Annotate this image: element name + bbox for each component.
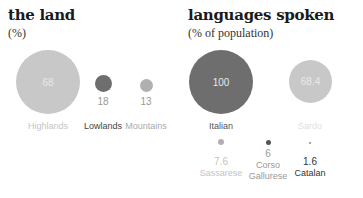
- sardo-bubble: 68.4: [289, 60, 332, 103]
- languages-subtitle: (% of population): [188, 26, 273, 41]
- land-subtitle: (%): [8, 26, 26, 41]
- catalan-label: Catalan: [275, 168, 345, 179]
- italian-value: 100: [213, 77, 230, 88]
- italian-label: Italian: [186, 121, 256, 132]
- mountains-bubble: [140, 79, 153, 92]
- catalan-bubble: [309, 142, 311, 144]
- highlands-bubble: 68: [16, 50, 80, 114]
- highlands-value: 68: [42, 77, 53, 88]
- mountains-value: 13: [116, 96, 176, 107]
- lowlands-bubble: [95, 75, 112, 92]
- italian-bubble: 100: [189, 50, 253, 114]
- catalan-value: 1.6: [280, 156, 340, 167]
- corso-gallurese-bubble: [266, 140, 271, 145]
- land-title: the land: [8, 6, 75, 24]
- languages-title: languages spoken: [188, 6, 334, 24]
- sassarese-bubble: [218, 139, 224, 145]
- sardo-label: Sardo: [275, 121, 345, 132]
- mountains-label: Mountains: [111, 121, 181, 132]
- sardo-value: 68.4: [301, 76, 320, 87]
